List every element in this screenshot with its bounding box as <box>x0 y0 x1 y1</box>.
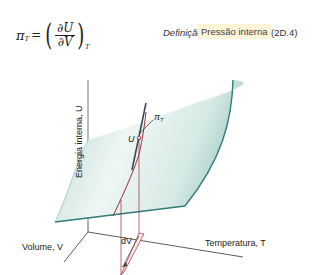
slope-label: πT <box>154 112 164 123</box>
volume-axis-label: Volume, V <box>22 242 63 252</box>
dv-label: dV <box>121 236 132 246</box>
temperature-axis-label: Temperatura, T <box>205 238 266 248</box>
internal-energy-surface-diagram: Energia interna, U Temperatura, T Volume… <box>0 0 315 275</box>
energy-axis-label: Energia interna, U <box>74 105 84 178</box>
volume-axis-line <box>64 232 88 262</box>
point-label: U <box>128 134 135 144</box>
